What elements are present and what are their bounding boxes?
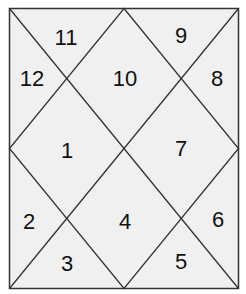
house-12-label: 12 <box>20 68 44 90</box>
house-11-label: 11 <box>55 27 78 49</box>
house-4-label: 4 <box>119 211 131 233</box>
house-6-label: 6 <box>212 209 224 231</box>
house-9-label: 9 <box>175 25 187 47</box>
house-2-label: 2 <box>23 211 35 233</box>
house-5-label: 5 <box>175 251 187 273</box>
house-10-label: 10 <box>113 68 137 90</box>
house-8-label: 8 <box>211 68 223 90</box>
house-7-label: 7 <box>175 138 187 160</box>
house-1-label: 1 <box>61 140 73 162</box>
chart-lines <box>0 0 246 294</box>
house-3-label: 3 <box>61 253 73 275</box>
